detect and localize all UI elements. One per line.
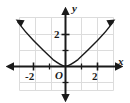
x-tick-label-neg2: -2	[25, 71, 34, 82]
coordinate-plane-svg	[0, 0, 130, 103]
y-tick-label-pos2: 2	[54, 29, 60, 40]
x-axis-label: x	[118, 56, 124, 67]
y-axis	[62, 10, 70, 99]
origin-label: O	[55, 70, 63, 81]
graph-figure: -2 2 2 O x y	[0, 0, 130, 103]
x-tick-label-pos2: 2	[92, 71, 98, 82]
y-axis-label: y	[72, 3, 77, 14]
